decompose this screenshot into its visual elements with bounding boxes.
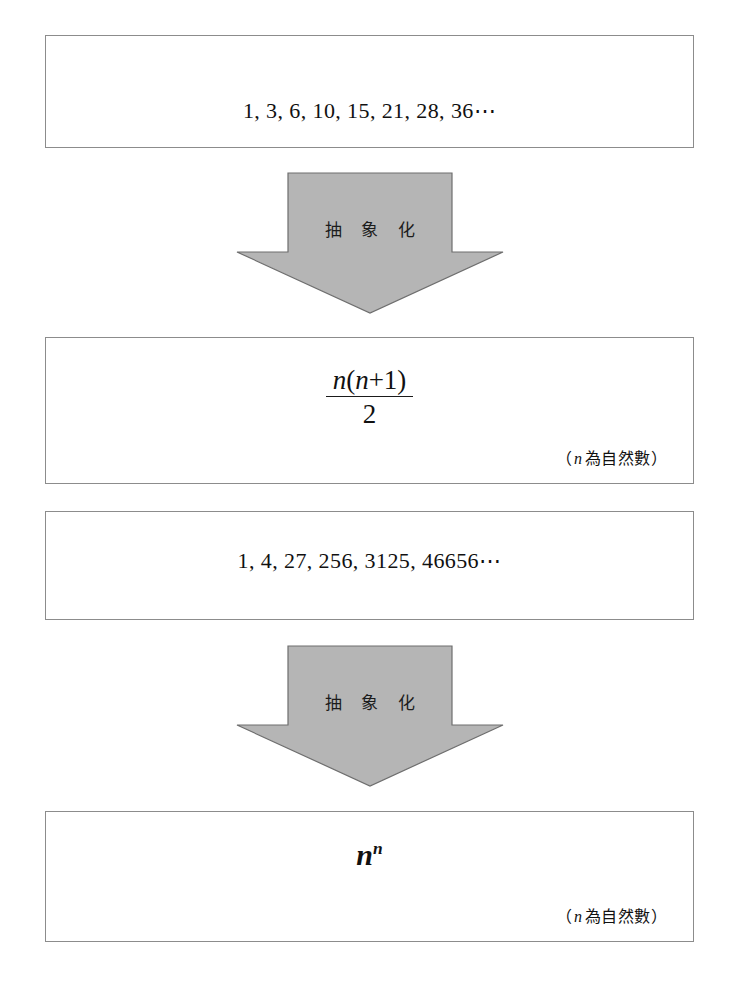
sequence-box-triangular: 1, 3, 6, 10, 15, 21, 28, 36⋯ xyxy=(45,35,694,148)
power-container: nn xyxy=(46,838,693,872)
sequence-text-power: 1, 4, 27, 256, 3125, 46656⋯ xyxy=(46,548,693,574)
fraction-numerator: n(n+1) xyxy=(326,366,414,397)
formula-box-triangular: n(n+1) 2 （n為自然數） xyxy=(45,337,694,484)
sequence-box-power: 1, 4, 27, 256, 3125, 46656⋯ xyxy=(45,511,694,620)
note-variable-n: n xyxy=(572,908,585,925)
power-exponent: n xyxy=(373,838,383,858)
note-open-paren: （ xyxy=(556,907,573,926)
down-arrow-icon xyxy=(236,172,504,314)
formula-box-power: nn （n為自然數） xyxy=(45,811,694,942)
numerator-variable-n: n xyxy=(333,365,347,395)
fraction-container: n(n+1) 2 xyxy=(46,366,693,429)
note-body-text: 為自然數 xyxy=(585,907,651,926)
note-body-text: 為自然數 xyxy=(585,449,651,468)
note-close-paren: ） xyxy=(651,449,668,468)
numerator-tail: +1) xyxy=(369,365,407,395)
note-variable-n: n xyxy=(572,450,585,467)
fraction-denominator: 2 xyxy=(326,397,414,428)
note-open-paren: （ xyxy=(556,449,573,468)
diagram-canvas: 1, 3, 6, 10, 15, 21, 28, 36⋯ 抽 象 化 n(n+1… xyxy=(0,0,735,988)
abstraction-arrow-2: 抽 象 化 xyxy=(236,645,504,787)
natural-number-note-2: （n為自然數） xyxy=(556,903,668,927)
natural-number-note-1: （n為自然數） xyxy=(556,445,668,469)
numerator-open-paren: ( xyxy=(346,365,355,395)
power-expression: nn xyxy=(356,838,382,871)
abstraction-arrow-1: 抽 象 化 xyxy=(236,172,504,314)
down-arrow-icon xyxy=(236,645,504,787)
power-base: n xyxy=(356,838,373,871)
sequence-text-triangular: 1, 3, 6, 10, 15, 21, 28, 36⋯ xyxy=(46,98,693,124)
numerator-variable-n-inner: n xyxy=(355,365,369,395)
note-close-paren: ） xyxy=(651,907,668,926)
fraction-triangular: n(n+1) 2 xyxy=(326,366,414,429)
